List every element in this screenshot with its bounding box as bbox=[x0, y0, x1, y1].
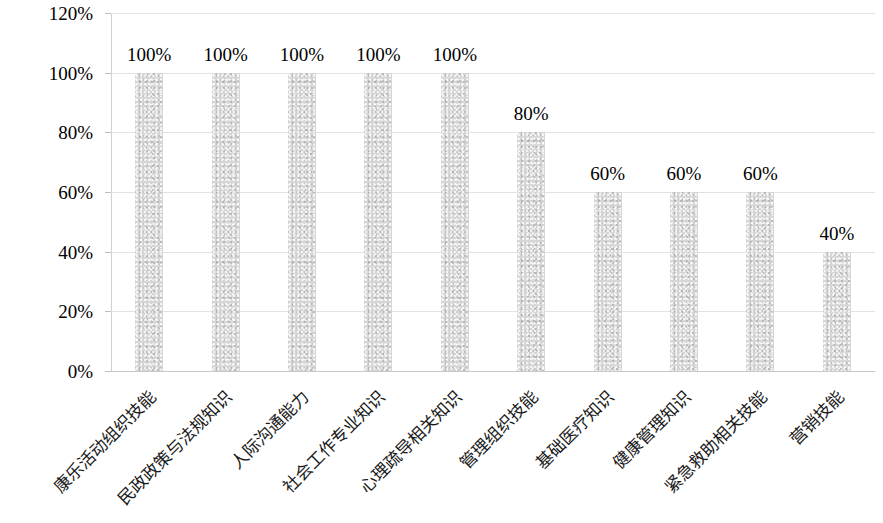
bar-value-label: 80% bbox=[486, 104, 576, 123]
bar-value-label: 60% bbox=[715, 164, 805, 183]
bar-value-label: 40% bbox=[792, 224, 882, 243]
y-axis-tick-label: 100% bbox=[0, 64, 93, 83]
bar bbox=[746, 192, 774, 371]
bar bbox=[212, 73, 240, 371]
gridline-120 bbox=[111, 13, 875, 14]
bar-chart: 0%20%40%60%80%100%120% 100%100%100%100%1… bbox=[0, 0, 883, 523]
y-axis-tick-label: 60% bbox=[0, 183, 93, 202]
y-axis-tick-label: 120% bbox=[0, 4, 93, 23]
x-axis-category-label: 营销技能 bbox=[786, 388, 848, 450]
y-axis-tick-label: 40% bbox=[0, 243, 93, 262]
y-axis-tick-label: 0% bbox=[0, 362, 93, 381]
x-axis-category-label: 健康管理知识 bbox=[609, 388, 695, 474]
bar bbox=[364, 73, 392, 371]
bar bbox=[823, 252, 851, 371]
plot-area bbox=[111, 13, 875, 371]
bar bbox=[288, 73, 316, 371]
x-axis-category-label: 基础医疗知识 bbox=[533, 388, 619, 474]
bar bbox=[135, 73, 163, 371]
y-axis-tick-label: 20% bbox=[0, 302, 93, 321]
bar bbox=[517, 132, 545, 371]
bar bbox=[594, 192, 622, 371]
gridline-0 bbox=[111, 371, 875, 372]
x-axis-category-label: 人际沟通能力 bbox=[227, 388, 313, 474]
bar bbox=[670, 192, 698, 371]
bar bbox=[441, 73, 469, 371]
y-axis-tick-label: 80% bbox=[0, 123, 93, 142]
x-axis-category-label: 管理组织技能 bbox=[456, 388, 542, 474]
bar-value-label: 100% bbox=[410, 45, 500, 64]
